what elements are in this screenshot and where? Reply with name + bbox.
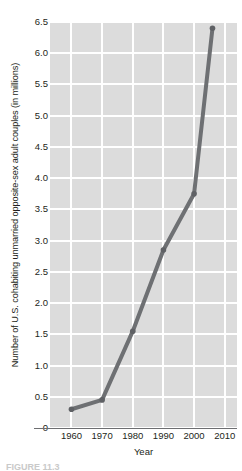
y-tick-label: 2.0 xyxy=(2,298,48,308)
y-tick-label: 5.5 xyxy=(2,79,48,89)
data-point-marker xyxy=(191,191,197,197)
y-tick-label: 1.5 xyxy=(2,329,48,339)
y-tick-label: 5.0 xyxy=(2,111,48,121)
y-tick-label: 0.5 xyxy=(2,392,48,402)
y-tick-label: 3.5 xyxy=(2,204,48,214)
figure-caption: FIGURE 11.3 xyxy=(6,462,60,471)
y-tick-label: 4.5 xyxy=(2,142,48,152)
x-axis-tick-labels: 196019701980199020002010 xyxy=(0,430,242,446)
chart-figure: Number of U.S. cohabiting unmarried oppo… xyxy=(0,0,242,471)
data-point-marker xyxy=(130,328,136,334)
x-tick-label: 2010 xyxy=(205,430,242,442)
y-tick-label: 3.0 xyxy=(2,236,48,246)
y-tick-label: 1.0 xyxy=(2,361,48,371)
data-point-marker xyxy=(161,247,167,253)
plot-area xyxy=(50,22,237,428)
data-point-marker xyxy=(210,25,216,31)
data-point-marker xyxy=(99,397,105,403)
y-tick-label: 6.0 xyxy=(2,48,48,58)
x-axis-line xyxy=(34,428,237,429)
data-point-marker xyxy=(69,406,75,412)
y-tick-label: 4.0 xyxy=(2,173,48,183)
x-axis-title: Year xyxy=(50,446,237,457)
y-tick-label: 2.5 xyxy=(2,267,48,277)
series-polyline xyxy=(71,28,212,409)
y-axis-tick-labels: 00.51.01.52.02.53.03.54.04.55.05.56.06.5 xyxy=(0,0,48,471)
y-tick-label: 6.5 xyxy=(2,17,48,27)
data-series-line xyxy=(50,22,237,428)
